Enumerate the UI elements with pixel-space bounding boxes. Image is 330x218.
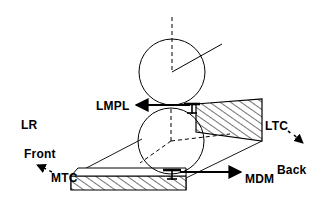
label-mdm: MDM: [245, 173, 274, 185]
ltc-hatched-slab: [196, 99, 262, 141]
label-back: Back: [277, 164, 307, 176]
label-lmpl: LMPL: [96, 100, 129, 112]
front-direction-arrow: [37, 165, 52, 172]
back-direction-arrow: [288, 131, 303, 143]
figure-root: LMPL LTC MTC MDM LR Front Back: [0, 0, 330, 218]
label-mtc: MTC: [51, 172, 78, 184]
label-ltc: LTC: [265, 120, 288, 132]
diagram-canvas: [0, 0, 330, 218]
label-front: Front: [24, 148, 56, 160]
label-lr: LR: [21, 119, 37, 131]
